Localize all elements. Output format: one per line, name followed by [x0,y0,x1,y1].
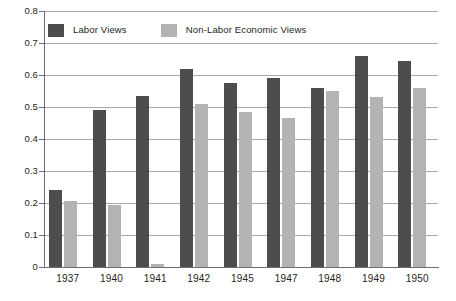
y-axis-tick-mark [39,43,45,44]
x-axis-tick-label: 1950 [395,272,439,285]
x-axis-tick-label: 1937 [46,272,90,285]
legend-label: Labor Views [73,24,127,36]
x-axis-tick-label: 1948 [308,272,352,285]
bar [326,91,339,267]
bar [151,264,164,267]
bar-groups [45,11,438,267]
bar [398,61,411,267]
x-axis-labels: 193719401941194219451947194819491950 [45,272,438,292]
y-axis-tick-label: 0.3 [2,166,38,176]
bar-group [263,11,307,267]
bar-group [220,11,264,267]
bar [64,201,77,267]
legend-item: Labor Views [48,24,127,37]
x-axis-tick-label: 1941 [133,272,177,285]
x-axis-line [45,267,439,268]
y-axis-tick-mark [39,203,45,204]
bar-group [176,11,220,267]
bar [93,110,106,267]
bar [311,88,324,267]
bar-chart: 0.80.70.60.50.40.30.20.10 19371940194119… [0,0,456,301]
bar [413,88,426,267]
y-axis-tick-label: 0 [2,262,38,272]
y-axis-tick-label: 0.4 [2,134,38,144]
bar-group [89,11,133,267]
bar [370,97,383,267]
bar [355,56,368,267]
y-axis-tick-mark [39,171,45,172]
y-axis-tick-mark [39,267,45,268]
y-axis-tick-label: 0.2 [2,198,38,208]
y-axis-tick-label: 0.8 [2,6,38,16]
bar [239,112,252,267]
y-axis-tick-label: 0.7 [2,38,38,48]
bar [108,205,121,267]
bar [49,190,62,267]
y-axis-tick-label: 0.6 [2,70,38,80]
legend-swatch-icon [161,24,177,37]
bar [136,96,149,267]
y-axis-tick-label: 0.5 [2,102,38,112]
bar [282,118,295,267]
y-axis-tick-mark [39,235,45,236]
x-axis-tick-label: 1942 [177,272,221,285]
x-axis-tick-label: 1947 [264,272,308,285]
bar-group [351,11,395,267]
y-axis-tick-label: 0.1 [2,230,38,240]
legend-swatch-icon [48,24,64,37]
legend-item: Non-Labor Economic Views [161,24,307,37]
bar-group [307,11,351,267]
x-axis-tick-label: 1940 [90,272,134,285]
bar [180,69,193,267]
bar [195,104,208,267]
y-axis-tick-mark [39,107,45,108]
bar-group [45,11,89,267]
y-axis-tick-mark [39,75,45,76]
y-axis-tick-mark [39,139,45,140]
bar [224,83,237,267]
x-axis-tick-label: 1945 [221,272,265,285]
bar-group [132,11,176,267]
legend-label: Non-Labor Economic Views [186,24,307,36]
chart-legend: Labor ViewsNon-Labor Economic Views [48,22,306,38]
y-axis-tick-mark [39,11,45,12]
bar [267,78,280,267]
x-axis-tick-label: 1949 [352,272,396,285]
bar-group [394,11,438,267]
y-axis-labels: 0.80.70.60.50.40.30.20.10 [0,0,38,301]
